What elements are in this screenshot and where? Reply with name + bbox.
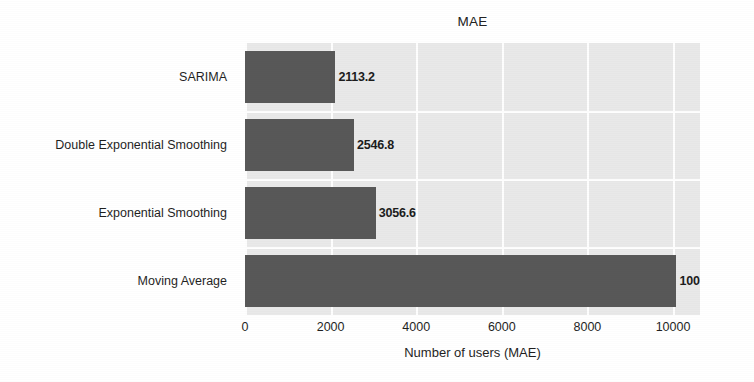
bar bbox=[245, 119, 354, 171]
y-axis-category-label: Double Exponential Smoothing bbox=[55, 138, 236, 152]
horizontal-gridline bbox=[245, 179, 700, 181]
y-axis-category-label: SARIMA bbox=[179, 70, 236, 84]
x-axis-tick-label: 4000 bbox=[402, 320, 430, 334]
x-axis-title: Number of users (MAE) bbox=[245, 345, 700, 360]
bar-value-label: 2113.2 bbox=[338, 70, 374, 84]
bar-value-label: 10079.3 bbox=[679, 274, 700, 288]
bar-value-label: 2546.8 bbox=[357, 138, 394, 152]
bar-value-label: 3056.6 bbox=[379, 206, 416, 220]
x-axis-tick-label: 8000 bbox=[574, 320, 602, 334]
y-axis-category-label: Moving Average bbox=[138, 274, 236, 288]
y-axis-tick-labels: SARIMADouble Exponential SmoothingExpone… bbox=[0, 43, 236, 315]
chart-title: MAE bbox=[245, 14, 700, 29]
x-axis-tick-label: 0 bbox=[242, 320, 249, 334]
horizontal-gridline bbox=[245, 111, 700, 113]
bar bbox=[245, 187, 376, 239]
bar bbox=[245, 255, 676, 307]
x-axis-tick-label: 6000 bbox=[488, 320, 516, 334]
horizontal-gridline bbox=[245, 247, 700, 249]
x-axis-tick-label: 2000 bbox=[317, 320, 345, 334]
plot-area: 2113.22546.83056.610079.3 bbox=[245, 43, 700, 315]
x-axis-tick-label: 10000 bbox=[656, 320, 691, 334]
chart-figure: MAE 2113.22546.83056.610079.3 SARIMADoub… bbox=[0, 0, 754, 382]
y-axis-category-label: Exponential Smoothing bbox=[98, 206, 236, 220]
x-axis-tick-labels: 0200040006000800010000 bbox=[245, 320, 700, 342]
bar bbox=[245, 51, 335, 103]
